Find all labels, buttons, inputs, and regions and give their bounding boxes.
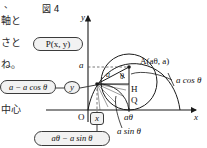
callout-x-component: aθ − a sin θ: [34, 131, 110, 146]
x-tick-label-atheta: aθ: [124, 112, 133, 122]
y-tick-label-a: a: [79, 60, 84, 70]
boxed-x-value: x: [90, 112, 104, 125]
boxed-y-value: y: [64, 81, 80, 94]
callout-y-component: a − a cos θ: [0, 80, 56, 94]
point-label-Q: Q: [131, 95, 138, 105]
leader-asin: [115, 96, 122, 128]
point-label-A: A(aθ, a): [140, 56, 169, 66]
side-text-line-3: ね。: [1, 56, 21, 71]
x-axis-label: x: [194, 112, 198, 122]
side-text-top: 、: [4, 0, 13, 11]
cycloid-diagram-svg: [0, 0, 207, 148]
side-text-line-2: さと: [1, 34, 21, 49]
side-text-line-4: 中心: [1, 101, 21, 116]
label-a-sin-theta: a sin θ: [117, 126, 141, 136]
leader-acos: [131, 72, 172, 80]
label-a-cos-theta: a cos θ: [176, 75, 201, 85]
point-label-H: H: [131, 84, 138, 94]
point-A-marker: [127, 65, 131, 69]
angle-label-theta: θ: [120, 72, 124, 81]
side-text-line-1: 軸と: [1, 12, 21, 27]
radius-label-a: a: [106, 70, 110, 79]
figure-title: 図 4: [42, 2, 60, 15]
figure-container: 、 軸と さと ね。 中心 図 4 y x O a aθ A(aθ, a) H …: [0, 0, 207, 148]
y-axis-label: y: [81, 12, 85, 22]
origin-label: O: [78, 112, 85, 122]
point-P-marker: [95, 82, 99, 86]
callout-P-coordinates: P(x, y): [33, 37, 83, 51]
